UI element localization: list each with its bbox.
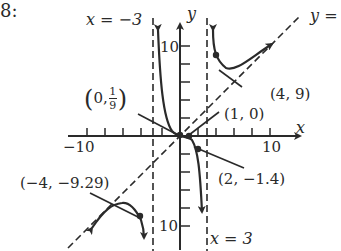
curve-left-branch — [92, 203, 144, 238]
slant-asymptote-label: y = — [310, 8, 338, 24]
point-label-0-1-9: (0,19) — [84, 86, 127, 111]
x-tick-label-right: 10 — [262, 140, 281, 155]
point-label-neg4-neg9-29: (−4, −9.29) — [20, 176, 109, 191]
point-label-4-9: (4, 9) — [270, 87, 310, 102]
asymptote-label-left: x = −3 — [86, 12, 142, 28]
y-tick-label-bottom: 10 — [159, 219, 178, 234]
x-tick-label-left: −10 — [63, 140, 95, 155]
y-axis-label: y — [187, 6, 196, 22]
asymptote-label-right: x = 3 — [210, 231, 253, 247]
y-tick-label-top: 10 — [160, 40, 179, 55]
curve-right-branch — [213, 30, 272, 69]
point-label-2-neg1-4: (2, −1.4) — [218, 172, 285, 187]
x-axis-label: x — [296, 120, 305, 136]
point-label-1-0: (1, 0) — [224, 107, 264, 122]
